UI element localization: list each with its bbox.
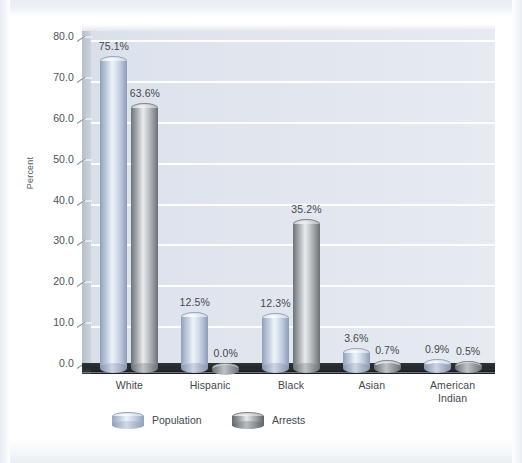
category-label-line: American: [407, 379, 499, 392]
y-axis-tick-mark: [77, 157, 88, 166]
bar-chart: 80.070.060.050.040.030.020.010.00.0 75.1…: [0, 0, 522, 463]
category-label-line: Hispanic: [164, 379, 256, 392]
y-axis-title: Percent: [25, 138, 35, 208]
y-axis-tick-mark: [77, 320, 88, 329]
bar-foot: [212, 365, 239, 375]
category-label-line: Indian: [407, 392, 499, 405]
y-axis-tick-mark: [77, 34, 88, 43]
bar-asian-arrests[interactable]: [374, 360, 401, 368]
bar-asian-population[interactable]: [343, 348, 370, 368]
legend-label-arrests: Arrests: [272, 414, 305, 426]
category-label-line: Black: [245, 379, 337, 392]
bar-body: [100, 61, 127, 368]
bar-foot: [181, 363, 208, 373]
bar-white-arrests[interactable]: [131, 103, 158, 368]
bar-value-label: 0.5%: [449, 345, 488, 357]
bar-black-population[interactable]: [262, 313, 289, 368]
category-label-line: Asian: [326, 379, 418, 392]
population-cylinder-icon: [112, 412, 144, 429]
y-axis-tick-mark: [77, 75, 88, 84]
y-axis-tick-label: 50.0: [36, 153, 74, 165]
bar-body: [131, 108, 158, 368]
y-axis-tick-label: 60.0: [36, 112, 74, 124]
arrests-cylinder-icon: [232, 412, 264, 429]
y-axis-tick-label: 20.0: [36, 275, 74, 287]
chart-legend: Population Arrests: [0, 408, 522, 448]
bar-value-label: 12.5%: [175, 296, 214, 308]
y-axis-tick-label: 10.0: [36, 316, 74, 328]
bar-black-arrests[interactable]: [293, 219, 320, 368]
bar-hispanic-arrests[interactable]: [212, 363, 239, 370]
x-axis-label-black: Black: [245, 379, 337, 392]
bar-body: [293, 224, 320, 368]
bar-foot: [343, 363, 370, 373]
legend-label-population: Population: [152, 414, 202, 426]
bar-value-label: 75.1%: [94, 40, 133, 52]
gridline: [91, 81, 495, 83]
bar-value-label: 0.0%: [206, 347, 245, 359]
bar-foot: [455, 363, 482, 373]
bar-white-population[interactable]: [100, 56, 127, 368]
y-axis-tick-label: 0.0: [36, 357, 74, 369]
x-axis-label-american-indian: AmericanIndian: [407, 379, 499, 404]
bar-hispanic-population[interactable]: [181, 312, 208, 368]
bar-foot: [374, 363, 401, 373]
bar-value-label: 63.6%: [125, 87, 164, 99]
y-axis-tick-label: 70.0: [36, 71, 74, 83]
y-axis-tick-label: 80.0: [36, 30, 74, 42]
bar-body: [262, 318, 289, 368]
bar-foot: [293, 363, 320, 373]
bar-foot: [424, 363, 451, 373]
bar-body: [181, 317, 208, 368]
bar-american-indian-population[interactable]: [424, 359, 451, 368]
y-axis-tick-mark: [77, 279, 88, 288]
x-axis-label-white: White: [83, 379, 175, 392]
bar-value-label: 3.6%: [337, 332, 376, 344]
bar-american-indian-arrests[interactable]: [455, 361, 482, 368]
bar-value-label: 0.7%: [368, 344, 407, 356]
category-label-line: White: [83, 379, 175, 392]
y-axis-tick-mark: [77, 198, 88, 207]
bar-value-label: 35.2%: [287, 203, 326, 215]
x-axis-label-asian: Asian: [326, 379, 418, 392]
y-axis-tick-label: 40.0: [36, 194, 74, 206]
bar-foot: [262, 363, 289, 373]
x-axis-label-hispanic: Hispanic: [164, 379, 256, 392]
y-axis-tick-mark: [77, 238, 88, 247]
y-axis-tick-label: 30.0: [36, 234, 74, 246]
bar-value-label: 12.3%: [256, 297, 295, 309]
gridline: [91, 40, 495, 42]
y-axis-tick-mark: [77, 116, 88, 125]
